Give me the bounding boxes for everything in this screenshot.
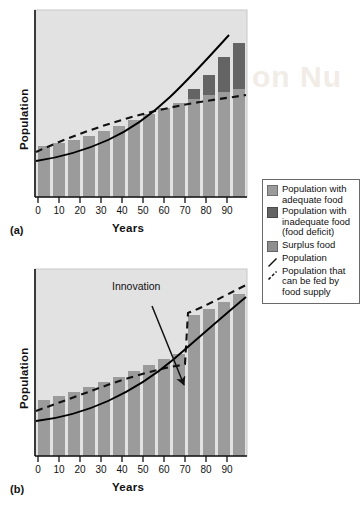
legend-swatch-adequate-food-icon [267,185,278,196]
panel-b-innovation-label: Innovation [112,280,160,292]
panel-a-x-axis-label: Years [112,222,144,234]
legend-label-population-line1: Population [282,253,327,264]
panel-b-tick-40: 40 [116,464,127,475]
legend-swatch-inadequate-food-icon [267,207,278,218]
panel-b-tick-30: 30 [95,464,106,475]
panel-a-plot-background [35,10,247,197]
legend-item-population: Population [266,253,356,265]
legend-item-adequate-food: Population with adequate food [266,184,356,205]
legend-item-surplus-food: Surplus food [266,240,356,252]
panel-a-tick-0: 0 [35,205,41,216]
panel-a-tick-30: 30 [95,205,106,216]
legend-label-inadequate-food-line1: Population with [282,206,350,217]
panel-b-tick-90: 90 [221,464,232,475]
legend-solid-line-icon [267,254,278,265]
panel-a-x-ticks [38,197,227,203]
panel-b-plot [0,259,258,518]
dashed-line-icon [267,270,278,281]
panel-b-tag: (b) [10,483,24,495]
chart-panel-a: Population [0,0,258,259]
panel-a-tick-70: 70 [179,205,190,216]
legend-label-food-supply-line3: food supply [282,287,345,298]
panel-b-x-tick-labels: 0 10 20 30 40 50 60 70 80 90 [0,464,258,478]
legend-dashed-line-icon [267,267,278,278]
legend-label-adequate-food-line1: Population with [282,184,346,195]
panel-a-tick-80: 80 [200,205,211,216]
panel-a-tick-50: 50 [137,205,148,216]
chart-panel-b: Population [0,259,258,518]
legend-label-adequate-food: Population with adequate food [282,184,346,205]
panel-a-plot [0,0,258,259]
ghost-text-background: on Nu [252,60,342,94]
panel-b-tick-0: 0 [35,464,41,475]
panel-b-tick-20: 20 [74,464,85,475]
panel-b-plot-background [35,269,247,456]
panel-b-tick-70: 70 [179,464,190,475]
panel-b-tick-60: 60 [158,464,169,475]
legend-label-adequate-food-line2: adequate food [282,195,346,206]
legend-swatch-surplus-food-icon [267,241,278,252]
legend-label-surplus-food: Surplus food [282,240,335,251]
chart-legend: Population with adequate food Population… [262,179,360,304]
panel-b-tick-50: 50 [137,464,148,475]
panel-b-x-axis-label: Years [112,481,144,493]
panel-a-tick-20: 20 [74,205,85,216]
legend-item-food-supply: Population that can be fed by food suppl… [266,266,356,298]
legend-label-surplus-food-line1: Surplus food [282,240,335,251]
legend-label-food-supply-line2: can be fed by [282,276,345,287]
legend-label-inadequate-food: Population with inadequate food (food de… [282,206,350,238]
legend-label-population: Population [282,253,327,264]
panel-b-tick-10: 10 [53,464,64,475]
panel-a-tick-10: 10 [53,205,64,216]
panel-a-x-tick-labels: 0 10 20 30 40 50 60 70 80 90 [0,205,258,219]
panel-b-x-ticks [38,456,227,462]
legend-item-inadequate-food: Population with inadequate food (food de… [266,206,356,238]
panel-b-tick-80: 80 [200,464,211,475]
panel-a-tick-40: 40 [116,205,127,216]
panel-a-tick-90: 90 [221,205,232,216]
panel-a-tick-60: 60 [158,205,169,216]
panel-a-tag: (a) [10,224,23,236]
legend-label-food-supply: Population that can be fed by food suppl… [282,266,345,298]
legend-label-inadequate-food-line3: (food deficit) [282,227,350,238]
